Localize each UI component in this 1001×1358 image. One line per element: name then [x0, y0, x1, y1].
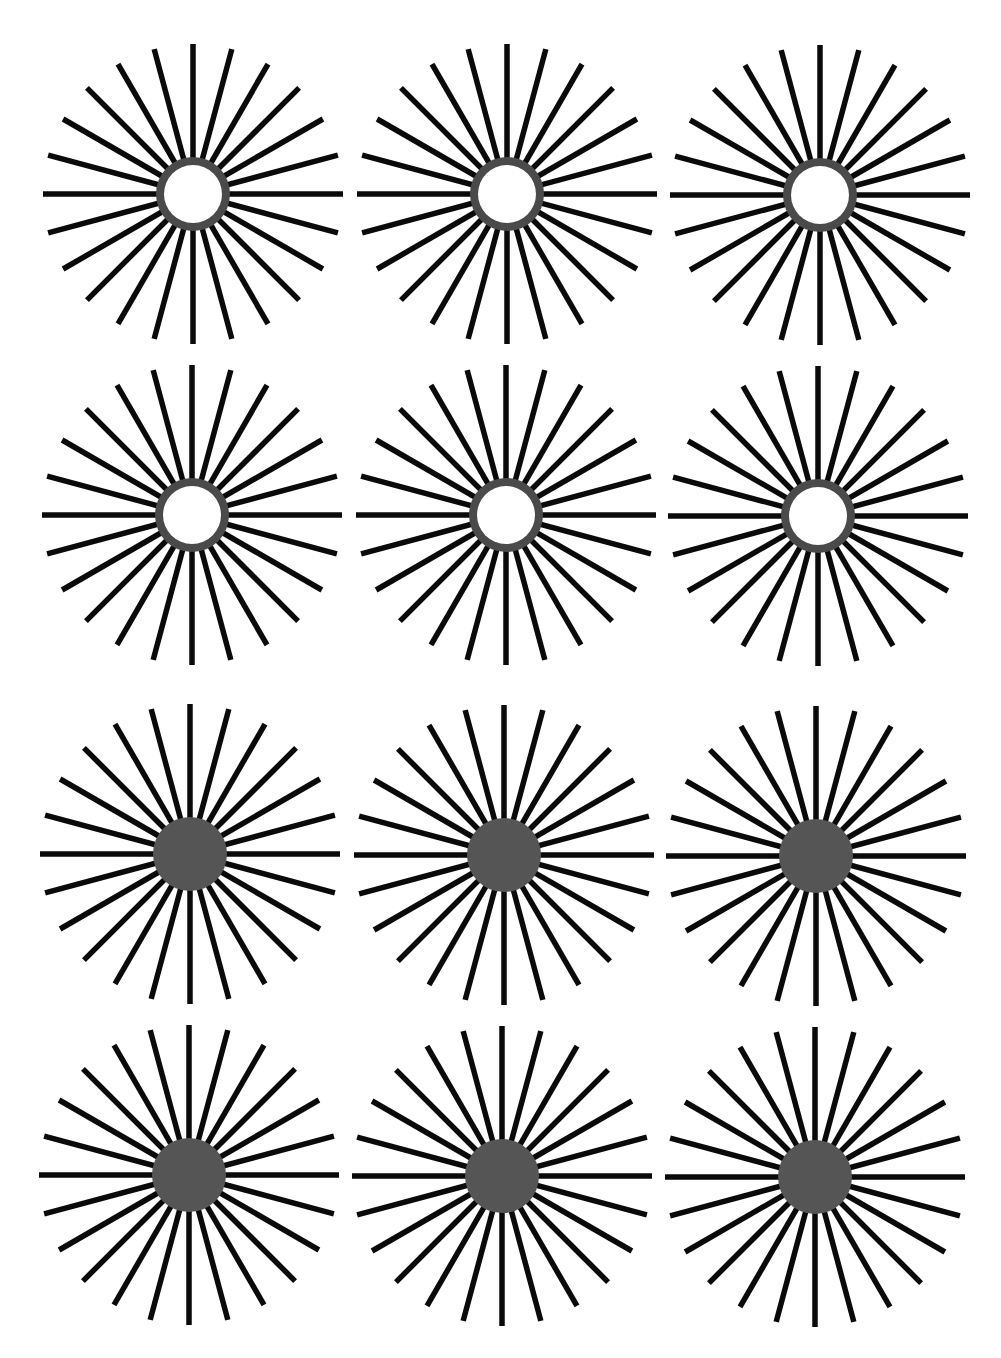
starburst-4-3 — [665, 1027, 965, 1327]
center-hole — [163, 486, 221, 544]
center-hole — [477, 486, 535, 544]
center-hole — [164, 165, 222, 223]
center-hole — [789, 487, 847, 545]
starburst-2-3 — [668, 366, 968, 666]
center-hole — [791, 166, 849, 224]
center-disc — [153, 817, 227, 891]
center-disc — [152, 1138, 226, 1212]
starburst-4-1 — [39, 1025, 339, 1325]
center-disc — [467, 818, 541, 892]
starburst-3-2 — [354, 705, 654, 1005]
starburst-4-2 — [352, 1026, 652, 1326]
starburst-1-3 — [670, 45, 970, 345]
starburst-1-2 — [357, 44, 657, 344]
starburst-2-2 — [356, 365, 656, 665]
center-hole — [478, 165, 536, 223]
starburst-3-3 — [666, 706, 966, 1006]
starburst-illusion-figure — [0, 0, 1001, 1358]
starburst-1-1 — [43, 44, 343, 344]
center-disc — [778, 1140, 852, 1214]
center-disc — [465, 1139, 539, 1213]
starburst-3-1 — [40, 704, 340, 1004]
center-disc — [779, 819, 853, 893]
starburst-2-1 — [42, 365, 342, 665]
